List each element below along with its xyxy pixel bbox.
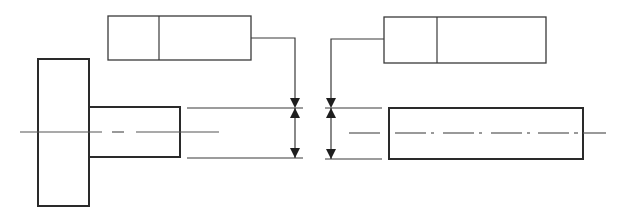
right-leader-arrow-icon	[326, 98, 336, 108]
right-frame-box	[384, 17, 546, 63]
right-dim-arrow-down-icon	[326, 149, 336, 159]
left-frame-box	[108, 16, 251, 60]
left-dim-arrow-up-icon	[290, 108, 300, 118]
right-view	[325, 17, 606, 159]
right-feature-control-frame	[384, 17, 546, 63]
left-feature-control-frame	[108, 16, 251, 60]
right-dim-arrow-up-icon	[326, 108, 336, 118]
left-view	[20, 16, 303, 206]
right-leader-line	[331, 39, 384, 99]
drawing-canvas	[0, 0, 625, 215]
left-leader-line	[251, 38, 295, 99]
left-leader-arrow-icon	[290, 98, 300, 108]
left-dim-arrow-down-icon	[290, 148, 300, 158]
